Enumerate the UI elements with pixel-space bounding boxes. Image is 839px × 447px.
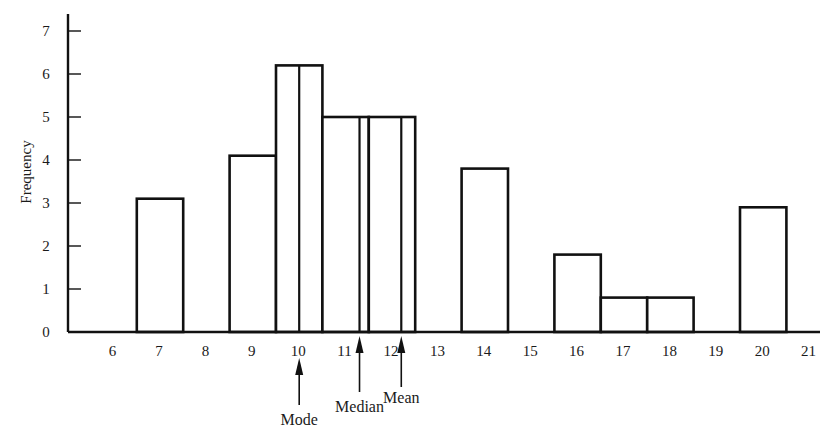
x-tick-label: 10 <box>291 343 306 359</box>
y-axis-ticks: 01234567 <box>42 23 81 340</box>
bars <box>137 65 787 332</box>
x-tick-label: 16 <box>569 343 585 359</box>
marker-mode: Mode <box>281 358 318 428</box>
y-tick-label: 2 <box>42 238 50 254</box>
x-tick-label: 9 <box>248 343 256 359</box>
histogram-bar <box>230 156 276 332</box>
y-tick-label: 7 <box>42 23 50 39</box>
x-tick-label: 21 <box>801 343 816 359</box>
y-tick-label: 4 <box>42 152 50 168</box>
arrow-up-icon <box>356 336 364 353</box>
x-tick-label: 11 <box>337 343 351 359</box>
x-tick-label: 14 <box>476 343 492 359</box>
histogram-bar <box>137 199 183 332</box>
histogram-bar <box>601 298 647 332</box>
x-tick-label: 7 <box>155 343 163 359</box>
x-tick-label: 13 <box>430 343 445 359</box>
x-tick-label: 12 <box>384 343 399 359</box>
x-axis-ticks: 6789101112131415161718192021 <box>109 343 816 359</box>
x-tick-label: 15 <box>523 343 538 359</box>
y-tick-label: 0 <box>42 324 50 340</box>
x-tick-label: 17 <box>616 343 632 359</box>
y-axis-label: Frequency <box>18 140 34 204</box>
histogram-bar <box>369 117 415 332</box>
marker-label: Mean <box>383 389 419 406</box>
y-tick-label: 6 <box>42 66 50 82</box>
arrow-up-icon <box>295 358 303 375</box>
x-tick-label: 6 <box>109 343 117 359</box>
x-tick-label: 8 <box>202 343 210 359</box>
x-tick-label: 18 <box>662 343 677 359</box>
histogram-bar <box>740 207 786 332</box>
histogram-bar <box>647 298 693 332</box>
x-tick-label: 19 <box>708 343 723 359</box>
marker-label: Mode <box>281 411 318 428</box>
x-tick-label: 20 <box>755 343 770 359</box>
y-tick-label: 1 <box>42 281 50 297</box>
histogram-bar <box>554 255 600 332</box>
y-tick-label: 5 <box>42 109 50 125</box>
y-tick-label: 3 <box>42 195 50 211</box>
histogram-bar <box>322 117 368 332</box>
marker-label: Median <box>335 398 384 415</box>
figure-caption-cropped <box>18 438 818 447</box>
histogram-chart: 01234567 6789101112131415161718192021 Fr… <box>0 0 839 447</box>
histogram-bar <box>462 169 508 332</box>
